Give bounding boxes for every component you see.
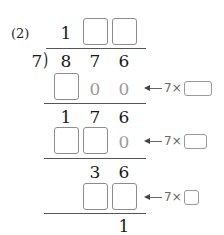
step2-digit-1: 1 <box>59 107 73 127</box>
division-bracket: ) <box>43 48 48 70</box>
dividend-digit-1: 8 <box>59 51 73 71</box>
left-arrow-icon <box>146 88 162 89</box>
left-arrow-icon <box>146 141 162 142</box>
step1-annotation-text: 7× <box>164 81 182 95</box>
step5-annotation-text: 7× <box>164 190 182 204</box>
step2-digit-3: 6 <box>117 107 131 127</box>
subtraction-line-1 <box>44 103 146 104</box>
step4-digit-2: 3 <box>88 162 102 182</box>
quotient-blank-2[interactable] <box>83 18 108 45</box>
dividend-digit-2: 7 <box>88 51 102 71</box>
quotient-blank-3[interactable] <box>112 18 137 45</box>
step4-digit-3: 6 <box>117 162 131 182</box>
step2-digit-2: 7 <box>88 107 102 127</box>
subtraction-line-2 <box>44 158 146 159</box>
problem-label: (2) <box>11 26 29 42</box>
step3-multiplier-blank[interactable] <box>184 134 207 149</box>
step5-multiplier-blank[interactable] <box>184 190 199 205</box>
final-remainder: 1 <box>117 216 131 235</box>
step1-annotation: 7× <box>146 80 212 96</box>
step1-hint-digit-3: 0 <box>117 79 131 99</box>
step5-annotation: 7× <box>146 189 199 205</box>
step3-blank-1[interactable] <box>54 127 79 154</box>
division-bar <box>46 48 146 49</box>
subtraction-line-3 <box>44 213 146 214</box>
step5-blank-1[interactable] <box>83 183 108 210</box>
step1-blank-1[interactable] <box>54 73 79 100</box>
step3-annotation-text: 7× <box>164 134 182 148</box>
step1-multiplier-blank[interactable] <box>184 81 212 96</box>
step3-hint-digit-3: 0 <box>117 132 131 152</box>
step3-annotation: 7× <box>146 133 207 149</box>
left-arrow-icon <box>146 197 162 198</box>
dividend-digit-3: 6 <box>117 51 131 71</box>
divisor: 7 <box>30 51 44 71</box>
step3-blank-2[interactable] <box>83 127 108 154</box>
step5-blank-2[interactable] <box>112 183 137 210</box>
step1-hint-digit-2: 0 <box>88 79 102 99</box>
quotient-digit-1: 1 <box>59 23 73 43</box>
